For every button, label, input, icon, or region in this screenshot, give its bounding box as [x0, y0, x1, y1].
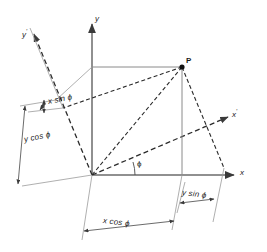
y-axis-label: y — [95, 14, 99, 23]
x-prime-mark: ′ — [236, 108, 237, 114]
diagram-svg — [0, 0, 267, 252]
figure-canvas: y x x′ y′ P ϕ x sin ϕ y cos ϕ x cos ϕ y … — [0, 0, 267, 252]
point-p-label: P — [186, 56, 192, 65]
primed-projection-parallelogram — [63, 67, 224, 175]
y-prime-axis-label: y′ — [22, 28, 28, 39]
y-prime-mark: ′ — [26, 28, 27, 34]
x-prime-axis — [92, 117, 228, 175]
point-p-marker — [179, 64, 184, 69]
x-prime-axis-label: x′ — [232, 108, 238, 119]
y-prime-axis — [34, 34, 92, 175]
x-axis-label: x — [240, 168, 244, 177]
dimension-y-cos-phi — [18, 106, 25, 184]
angle-arc-phi — [133, 162, 135, 175]
angle-phi-label: ϕ — [137, 159, 142, 168]
dimension-y-sin-phi — [180, 199, 214, 203]
